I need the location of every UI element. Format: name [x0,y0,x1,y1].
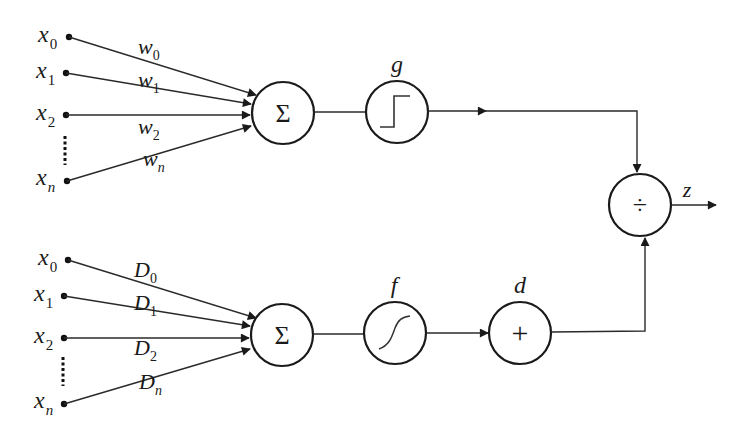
weight-label-D2: D2 [133,335,157,364]
activation-label-g: g [391,51,403,77]
input-label-xn-top: xn [35,164,55,195]
divide-icon: ÷ [633,191,647,220]
input-label-x2-bottom: x2 [33,322,53,353]
input-label-x2-top: x2 [35,99,55,130]
connection-to-divider [551,238,645,332]
weight-label-Dn: Dn [138,369,162,398]
activation-label-f: f [391,272,401,298]
weight-label-w2: w2 [138,114,160,143]
neural-diagram: x0 x1 x2 xn w0 w1 w2 wn Σ g x0 [0,0,747,435]
input-label-x0-bottom: x0 [37,244,57,275]
weight-label-w0: w0 [138,34,160,63]
sigma-icon: Σ [274,321,289,350]
bottom-branch: x0 x1 x2 xn D0 D1 D2 Dn Σ f d + [33,238,645,418]
weight-label-D1: D1 [133,290,157,319]
input-label-x0-top: x0 [37,21,57,52]
step-activation-node [366,81,428,143]
sigmoid-activation-node [364,302,426,364]
output-label-z: z [682,177,692,202]
weighted-connection [69,37,256,95]
connection-to-divider [484,111,637,172]
weight-label-D0: D0 [133,257,157,286]
weight-label-wn: wn [143,146,165,175]
sigma-icon: Σ [275,99,290,128]
input-label-xn-bottom: xn [33,387,53,418]
plus-icon: + [512,316,529,349]
input-label-x1-bottom: x1 [33,280,53,311]
top-branch: x0 x1 x2 xn w0 w1 w2 wn Σ g [35,21,637,195]
bias-label-d: d [514,272,527,298]
input-label-x1-top: x1 [35,57,55,88]
weighted-connection [68,260,256,318]
weighted-connection [64,296,250,326]
weight-label-w1: w1 [138,67,160,96]
combiner: ÷ z [609,174,716,236]
